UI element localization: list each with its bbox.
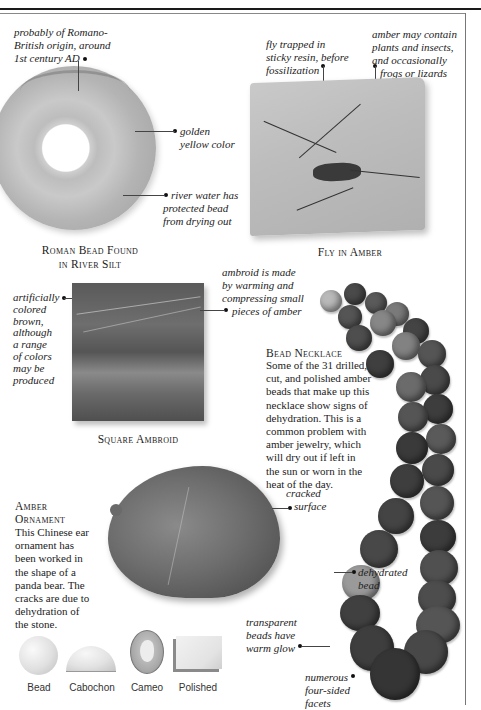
leader-line-dehydrated [334,572,352,573]
cabochon-shape-icon [66,646,116,672]
leader-line-cracked [272,508,288,509]
fly-leg [264,121,337,153]
annotation-facets: numerous four-sided facets [305,671,350,710]
amber-ornament-title: Amber Ornament [15,500,65,526]
leader-line-transparent [302,646,330,647]
necklace-bead [392,332,420,360]
necklace-bead [346,325,372,351]
annotation-dehydrated: dehydrated bead [358,566,407,592]
roman-bead-title: Roman Bead Found in River Silt [20,243,160,271]
leader-dot-cracked [288,506,292,510]
necklace-bead [420,520,456,554]
leader-line-river [123,195,165,196]
necklace-bead [422,454,454,486]
ambroid-streak [77,296,201,314]
leader-dot-facets [351,674,355,678]
necklace-bead-large [370,648,420,700]
cameo-profile [140,640,154,662]
leader-line-made [200,310,225,311]
panda-ear [110,504,122,516]
annotation-contents: amber may contain plants and insects, an… [372,28,457,80]
necklace-bead [418,340,446,368]
necklace-bead [378,498,414,534]
polished-shape-icon [176,636,222,669]
fly-body [313,162,361,182]
annotation-cracked: cracked surface [286,487,326,513]
annotation-river: river water has protected bead from dryi… [163,189,238,228]
leader-line-color [135,131,175,132]
annotation-transparent: transparent beads have warm glow [246,616,297,655]
necklace-bead [420,486,454,520]
bead-shape-icon [19,636,58,675]
fly-in-amber-image [250,77,425,236]
annotation-color: golden yellow color [180,125,235,151]
header-rule-thin [0,13,466,14]
necklace-bead [320,290,342,312]
cameo-shape-icon [130,630,164,674]
annotation-colored: artificially colored brown, although a r… [13,292,66,386]
annotation-fly: fly trapped in sticky resin, before foss… [266,38,349,77]
necklace-bead [370,310,396,336]
square-ambroid-title: Square Ambroid [78,432,198,446]
roman-bead-rim [20,70,130,113]
leader-line-origin [78,61,79,91]
header-rule [0,8,481,10]
necklace-bead [344,283,366,305]
leader-dot-dehydrated [352,570,356,574]
necklace-bead [360,530,398,568]
square-ambroid-image [72,283,204,421]
necklace-bead [426,424,456,454]
annotation-origin: probably of Romano- British origin, arou… [14,26,154,65]
ornament-crack [168,487,190,585]
amber-ornament-image [108,466,280,598]
fly-leg [297,187,354,210]
bead-necklace-body: Some of the 31 drilled, cut, and polishe… [266,359,406,491]
fly-in-amber-title: Fly in Amber [290,245,410,259]
